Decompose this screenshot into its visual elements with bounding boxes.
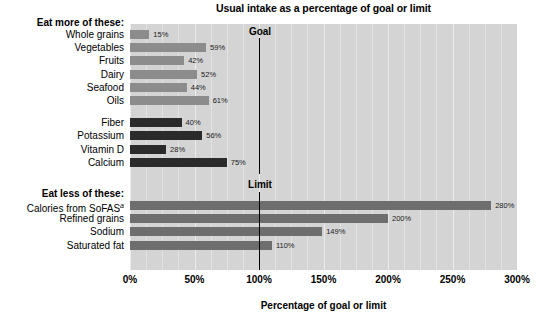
bar xyxy=(130,43,206,52)
reference-line-label: Goal xyxy=(249,26,271,37)
bar-value-label: 42% xyxy=(188,56,203,65)
footnote-marker: a xyxy=(120,202,124,209)
bar xyxy=(130,201,491,210)
bar xyxy=(130,227,322,236)
gridline xyxy=(372,24,373,270)
x-tick-label: 250% xyxy=(440,274,466,285)
bar-value-label: 200% xyxy=(392,214,411,223)
gridline xyxy=(485,24,486,270)
x-tick-label: 100% xyxy=(246,274,272,285)
bar-value-label: 280% xyxy=(495,201,514,210)
category-label: Sodium xyxy=(0,226,124,237)
bar xyxy=(130,56,184,65)
category-label: Vitamin D xyxy=(0,144,124,155)
bar-value-label: 149% xyxy=(326,227,345,236)
bar xyxy=(130,145,166,154)
group-heading: Eat less of these: xyxy=(0,188,124,199)
gridline xyxy=(388,24,389,270)
reference-line xyxy=(259,192,260,270)
x-tick-label: 50% xyxy=(184,274,204,285)
bar-value-label: 56% xyxy=(206,131,221,140)
bar xyxy=(130,96,209,105)
bar xyxy=(130,70,197,79)
reference-line-label: Limit xyxy=(248,179,272,190)
bar-value-label: 75% xyxy=(231,158,246,167)
x-axis-title: Percentage of goal or limit xyxy=(130,300,517,311)
gridline xyxy=(404,24,405,270)
bar xyxy=(130,30,149,39)
gridline xyxy=(469,24,470,270)
category-label: Seafood xyxy=(0,82,124,93)
gridline xyxy=(356,24,357,270)
bar-value-label: 61% xyxy=(213,96,228,105)
category-label: Calcium xyxy=(0,157,124,168)
x-tick-label: 300% xyxy=(504,274,530,285)
reference-line xyxy=(259,38,260,174)
gridline xyxy=(436,24,437,270)
x-tick-label: 200% xyxy=(375,274,401,285)
bar xyxy=(130,241,272,250)
category-label: Calories from SoFASa xyxy=(0,200,124,214)
bar xyxy=(130,118,182,127)
category-label: Saturated fat xyxy=(0,240,124,251)
gridline xyxy=(453,24,454,270)
bar-value-label: 59% xyxy=(210,43,225,52)
bar xyxy=(130,131,202,140)
category-label: Potassium xyxy=(0,130,124,141)
category-label: Fruits xyxy=(0,55,124,66)
bar xyxy=(130,158,227,167)
category-label: Refined grains xyxy=(0,213,124,224)
gridline xyxy=(501,24,502,270)
chart-title: Usual intake as a percentage of goal or … xyxy=(130,2,517,14)
x-tick-label: 0% xyxy=(123,274,137,285)
gridline xyxy=(420,24,421,270)
bar-value-label: 52% xyxy=(201,70,216,79)
category-label: Fiber xyxy=(0,117,124,128)
bar-value-label: 110% xyxy=(276,241,295,250)
bar xyxy=(130,83,187,92)
bar-value-label: 44% xyxy=(191,83,206,92)
gridline xyxy=(324,24,325,270)
group-heading: Eat more of these: xyxy=(0,17,124,28)
bar-value-label: 28% xyxy=(170,145,185,154)
category-label: Oils xyxy=(0,95,124,106)
chart-root: Usual intake as a percentage of goal or … xyxy=(0,0,537,322)
x-tick-label: 150% xyxy=(311,274,337,285)
bar-value-label: 40% xyxy=(186,118,201,127)
category-label: Vegetables xyxy=(0,42,124,53)
category-label: Whole grains xyxy=(0,29,124,40)
bar-value-label: 15% xyxy=(153,30,168,39)
category-label: Dairy xyxy=(0,69,124,80)
